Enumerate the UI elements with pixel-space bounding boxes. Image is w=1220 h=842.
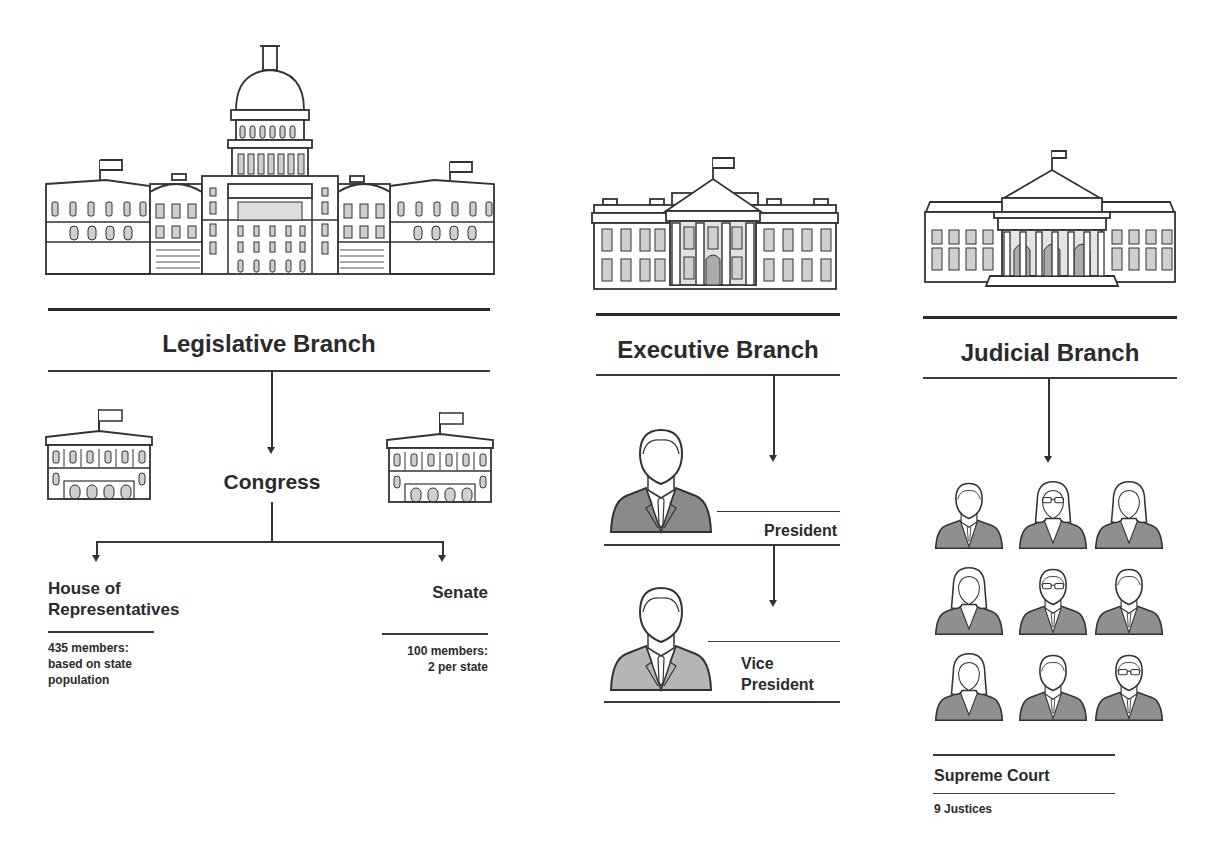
senate-label: Senate [380, 582, 488, 603]
justices-count: 9 Justices [934, 801, 992, 817]
capitol-building-icon [46, 42, 494, 278]
legislative-connector [271, 371, 273, 449]
judicial-branch-title: Judicial Branch [923, 339, 1177, 367]
house-rule [48, 631, 154, 633]
house-details: 435 members: based on state population [48, 640, 132, 688]
legislative-bottom-rule [48, 370, 490, 372]
justice-person-icon [1018, 652, 1088, 722]
arrow-down-icon [1044, 456, 1052, 463]
arrow-down-icon [769, 600, 777, 607]
vice-president-bottom-rule [604, 701, 840, 703]
arrow-down-icon [92, 555, 100, 562]
president-person-icon [606, 424, 716, 534]
arrow-down-icon [267, 447, 275, 454]
president-bottom-rule [604, 544, 840, 546]
arrow-down-icon [438, 555, 446, 562]
executive-branch-title: Executive Branch [596, 336, 840, 364]
senate-chamber-building-icon [385, 408, 495, 504]
justice-person-icon [934, 566, 1004, 636]
executive-top-rule [596, 313, 840, 316]
judicial-connector [1048, 378, 1050, 458]
house-of-representatives-label: House of Representatives [48, 578, 179, 620]
justice-person-icon [1018, 566, 1088, 636]
executive-bottom-rule [596, 374, 840, 376]
supreme-court-building-icon [922, 150, 1178, 288]
senate-rule [382, 633, 488, 635]
vice-president-label: Vice President [741, 653, 814, 695]
congress-label: Congress [192, 470, 352, 494]
vice-president-top-rule [708, 641, 840, 642]
justice-person-icon [1018, 480, 1088, 550]
executive-connector [773, 375, 775, 457]
president-label: President [717, 520, 837, 541]
president-top-rule [717, 511, 840, 512]
judicial-bottom-rule [923, 377, 1177, 379]
congress-split-line [96, 541, 443, 543]
vice-president-connector [773, 545, 775, 602]
justice-person-icon [1094, 652, 1164, 722]
supreme-court-label: Supreme Court [934, 765, 1050, 786]
judicial-top-rule [923, 316, 1177, 319]
justice-person-icon [1094, 480, 1164, 550]
justice-person-icon [934, 652, 1004, 722]
house-chamber-building-icon [44, 405, 154, 501]
legislative-branch-title: Legislative Branch [48, 330, 490, 358]
supreme-court-top-rule [933, 754, 1115, 756]
justice-person-icon [934, 480, 1004, 550]
white-house-icon [592, 155, 838, 291]
legislative-top-rule [48, 308, 490, 311]
supreme-court-bottom-rule [933, 793, 1115, 794]
arrow-down-icon [769, 455, 777, 462]
senate-details: 100 members: 2 per state [360, 643, 488, 675]
congress-connector [271, 502, 273, 542]
vice-president-person-icon [606, 582, 716, 692]
justice-person-icon [1094, 566, 1164, 636]
